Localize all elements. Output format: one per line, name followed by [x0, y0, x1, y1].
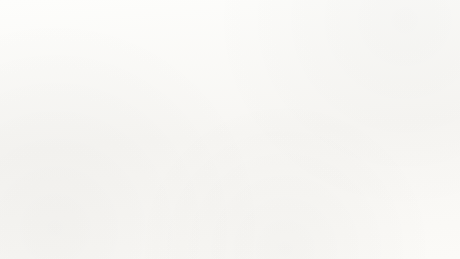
legend-item: Presbyterian 0.4%	[333, 140, 459, 155]
legend-item: Christian Church 4.8%	[333, 95, 459, 110]
bar-segment	[290, 170, 317, 199]
slice-label-catholic: Catholic 59%	[64, 234, 120, 243]
breakdown-legend: Other Protestant 1.9%Churches of Christ …	[333, 64, 459, 202]
legend-item: Pentecostal 2.9%	[333, 110, 459, 125]
legend-item: Methodist 0.9%	[333, 171, 459, 186]
bar-segment	[290, 163, 317, 170]
legend-item: Churches of Christ 1.4%	[333, 79, 459, 94]
slice-label-refused: Refused 8.3%	[119, 26, 179, 35]
legend-item: Lutheran 0.6%	[333, 156, 459, 171]
slice-label-no-religion: No Religion 10.1%	[153, 40, 232, 49]
legend-item: Other Protestant 1.9%	[333, 64, 459, 79]
legend-item: Baptist 3.6%	[333, 186, 459, 201]
protestant-breakdown-bar	[289, 63, 318, 200]
slice-label-protestant-name: Protestant	[215, 126, 285, 135]
leader-line-other-religion	[117, 24, 118, 66]
leader-line-mormon	[83, 34, 84, 62]
leader-line-catholic	[105, 198, 106, 232]
slice-label-mormon: Mormon 0.2%	[14, 36, 73, 45]
connector-line-bottom	[229, 183, 289, 200]
bar-segment	[290, 129, 317, 152]
bar-segment	[290, 90, 317, 128]
connector-line-top	[231, 63, 289, 84]
pie-chart-svg	[28, 56, 238, 252]
pie-chart	[28, 56, 238, 252]
bar-segment	[290, 79, 317, 90]
slice-label-protestant-value: 17.4%	[215, 137, 285, 146]
slice-label-other-religion: Other Religion 4.8%	[79, 13, 164, 22]
slice-label-protestant: Protestant 17.4%	[215, 126, 285, 147]
leader-line-no-religion	[203, 50, 204, 74]
pie-chart-figure: Mormon 0.2% Other Religion 4.8% Refused …	[0, 0, 460, 259]
bar-segment	[290, 64, 317, 79]
legend-item: Episcopalian 0.4%	[333, 125, 459, 140]
